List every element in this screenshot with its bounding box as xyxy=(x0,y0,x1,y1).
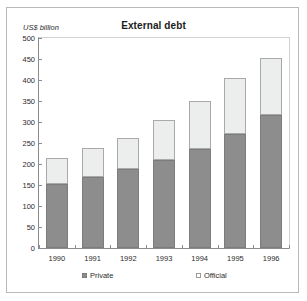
x-axis-tick-label: 1992 xyxy=(120,254,137,263)
x-axis-tick-label: 1993 xyxy=(156,254,173,263)
bar-segment-official xyxy=(46,158,68,184)
y-axis-tick-mark xyxy=(39,206,42,207)
x-axis-tick-mark xyxy=(289,245,290,248)
x-axis-tick-mark xyxy=(182,245,183,248)
bar-stack xyxy=(189,101,211,248)
y-axis-tick-mark xyxy=(39,101,42,102)
x-axis-tick-label: 1996 xyxy=(263,254,280,263)
y-axis-tick-mark xyxy=(39,80,42,81)
y-axis-tick-label: 150 xyxy=(22,181,35,190)
bar-segment-official xyxy=(82,148,104,177)
x-axis-tick-mark xyxy=(253,245,254,248)
bar-stack xyxy=(260,58,282,248)
y-axis-tick-label: 50 xyxy=(27,223,35,232)
bar-stack xyxy=(224,78,246,248)
y-axis-tick-label: 300 xyxy=(22,118,35,127)
x-axis-tick-mark xyxy=(75,245,76,248)
bar-stack xyxy=(153,120,175,248)
bar-segment-official xyxy=(117,138,139,169)
legend-swatch-private-icon xyxy=(82,273,87,278)
x-axis-tick-label: 1991 xyxy=(84,254,101,263)
y-axis-tick-label: 200 xyxy=(22,160,35,169)
legend-swatch-official-icon xyxy=(196,273,201,278)
x-axis-tick-mark xyxy=(110,245,111,248)
x-axis-tick-mark xyxy=(146,245,147,248)
y-axis-unit-label: US$ billion xyxy=(23,23,59,32)
y-axis-tick-label: 450 xyxy=(22,55,35,64)
y-axis-tick-mark xyxy=(39,143,42,144)
bar-segment-official xyxy=(260,58,282,115)
bar-segment-official xyxy=(224,78,246,134)
legend-label: Private xyxy=(90,271,113,280)
bar-segment-private xyxy=(153,160,175,248)
x-axis-tick-label: 1990 xyxy=(49,254,66,263)
y-axis-tick-label: 100 xyxy=(22,202,35,211)
y-axis-tick-mark xyxy=(39,59,42,60)
bar-segment-official xyxy=(153,120,175,160)
legend-label: Official xyxy=(204,271,227,280)
chart-figure: External debt US$ billion 05010015020025… xyxy=(0,0,307,301)
y-axis-tick-mark xyxy=(39,164,42,165)
legend-item-official: Official xyxy=(196,271,227,280)
bar-stack xyxy=(46,158,68,248)
y-axis-tick-label: 400 xyxy=(22,76,35,85)
y-axis-tick-mark xyxy=(39,122,42,123)
bar-segment-private xyxy=(189,149,211,248)
bar-segment-private xyxy=(260,115,282,248)
x-axis-tick-mark xyxy=(218,245,219,248)
x-axis-tick-label: 1995 xyxy=(227,254,244,263)
x-axis-tick-mark xyxy=(39,245,40,248)
plot-area: 0501001502002503003504004505001990199119… xyxy=(38,37,290,249)
bar-segment-private xyxy=(82,177,104,248)
legend-item-private: Private xyxy=(82,271,113,280)
y-axis-tick-label: 500 xyxy=(22,34,35,43)
x-axis-tick-label: 1994 xyxy=(191,254,208,263)
y-axis-tick-label: 250 xyxy=(22,139,35,148)
bar-segment-private xyxy=(46,184,68,248)
plot-inner: 0501001502002503003504004505001990199119… xyxy=(39,38,289,248)
bar-stack xyxy=(117,138,139,248)
y-axis-tick-label: 350 xyxy=(22,97,35,106)
bar-segment-official xyxy=(189,101,211,150)
bar-stack xyxy=(82,148,104,248)
y-axis-tick-mark xyxy=(39,38,42,39)
y-axis-tick-label: 0 xyxy=(31,244,35,253)
y-axis-tick-mark xyxy=(39,248,42,249)
y-axis-tick-mark xyxy=(39,185,42,186)
chart-legend: PrivateOfficial xyxy=(38,271,290,283)
y-axis-tick-mark xyxy=(39,227,42,228)
bar-segment-private xyxy=(117,169,139,248)
bar-segment-private xyxy=(224,134,246,248)
